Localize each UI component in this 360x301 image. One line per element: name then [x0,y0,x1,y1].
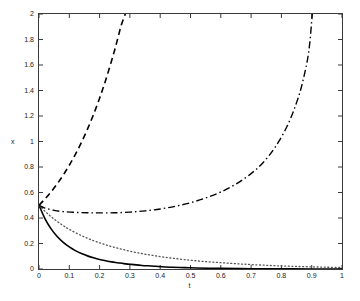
x-tick-label: 1 [329,272,355,280]
figure-canvas: 00.20.40.60.811.21.41.61.82 00.10.20.30.… [0,0,360,301]
x-tick-label: 0.8 [268,272,294,280]
x-tick-label: 0.3 [117,272,143,280]
x-tick-label: 0.6 [208,272,234,280]
x-tick-label: 0 [26,272,52,280]
y-tick-label: 1.4 [2,87,34,95]
y-tick-label: 0.6 [2,189,34,197]
x-axis-label: t [189,282,191,289]
dotted-curve [39,205,342,267]
y-tick-label: 1.6 [2,61,34,69]
y-tick-label: 1.2 [2,112,34,120]
x-tick-label: 0.2 [87,272,113,280]
solid-curve [39,205,342,269]
y-tick-label: 0.4 [2,214,34,222]
y-tick-label: 2 [2,10,34,18]
x-tick-label: 0.9 [299,272,325,280]
curves-svg [39,14,342,269]
x-tick-label: 0.5 [178,272,204,280]
y-axis-label: x [11,138,15,145]
y-tick-label: 1 [2,138,34,146]
x-tick-label: 0.4 [147,272,173,280]
x-tick-label: 0.1 [56,272,82,280]
plot-area [38,13,343,270]
dashed-curve [39,14,125,205]
y-tick-label: 0.2 [2,240,34,248]
y-tick-label: 0.8 [2,163,34,171]
x-tick-label: 0.7 [238,272,264,280]
dash-dot-curve [39,14,312,213]
y-tick-label: 1.8 [2,36,34,44]
